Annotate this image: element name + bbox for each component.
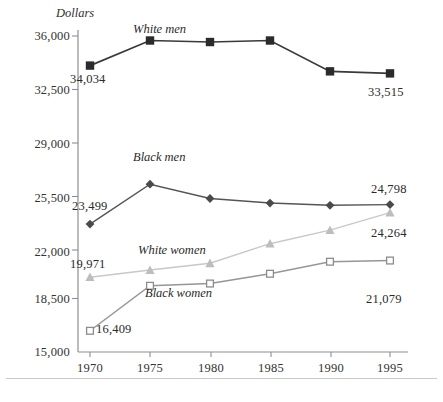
value-label-black-men-1995: 24,798 <box>371 182 407 197</box>
series-label-black-men: Black men <box>133 150 185 165</box>
data-point <box>266 199 275 208</box>
series-white-women <box>85 208 394 281</box>
data-point <box>86 220 95 229</box>
data-point <box>146 36 154 44</box>
data-point <box>326 67 334 75</box>
series-black-women <box>87 257 394 334</box>
value-label-black-men-1970: 23,499 <box>72 199 108 214</box>
data-point <box>327 258 334 265</box>
bottom-divider <box>6 378 437 379</box>
plot-area <box>0 0 443 402</box>
series-black-men <box>86 180 395 229</box>
data-point <box>266 36 274 44</box>
data-point <box>87 327 94 334</box>
value-label-white-men-1970: 34,034 <box>70 72 106 87</box>
series-line <box>90 261 390 331</box>
axis-lines <box>78 30 408 352</box>
series-label-white-men: White men <box>133 22 186 37</box>
series-line <box>90 41 390 74</box>
value-label-black-women-1995: 21,079 <box>366 292 402 307</box>
data-point <box>206 194 215 203</box>
line-chart: Dollars 36,000 32,500 29,000 25,500 22,0… <box>0 0 443 402</box>
x-axis-ticks <box>90 352 390 357</box>
data-point <box>326 201 335 210</box>
data-point <box>385 208 394 217</box>
series-layer <box>85 36 394 334</box>
series-label-black-women: Black women <box>145 286 212 301</box>
value-label-white-women-1970: 19,971 <box>70 257 106 272</box>
data-point <box>206 38 214 46</box>
series-line <box>90 184 390 224</box>
data-point <box>387 257 394 264</box>
data-point <box>146 180 155 189</box>
value-label-black-women-1970: 16,409 <box>96 322 132 337</box>
series-line <box>90 213 390 278</box>
value-label-white-women-1995: 24,264 <box>371 226 407 241</box>
data-point <box>267 270 274 277</box>
series-white-men <box>86 36 394 77</box>
data-point <box>386 200 395 209</box>
data-point <box>86 61 94 69</box>
series-label-white-women: White women <box>138 243 206 258</box>
data-point <box>386 69 394 77</box>
value-label-white-men-1995: 33,515 <box>368 85 404 100</box>
